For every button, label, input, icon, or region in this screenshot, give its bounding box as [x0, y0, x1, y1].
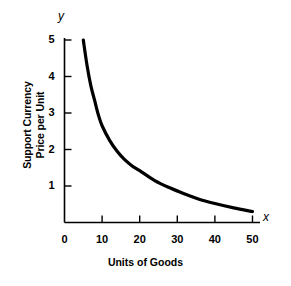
x-tick-label: 40	[203, 233, 227, 245]
y-tick-label: 2	[39, 143, 55, 155]
x-tick-label: 0	[53, 233, 77, 245]
x-tick-label: 50	[240, 233, 264, 245]
y-tick-label: 5	[39, 33, 55, 45]
x-tick-label: 20	[128, 233, 152, 245]
axes	[65, 38, 261, 223]
y-tick-label: 4	[39, 70, 55, 82]
chart-figure: Support Currency Price per Unit y x 1234…	[0, 0, 291, 286]
x-tick-label: 30	[165, 233, 189, 245]
y-tick-label: 3	[39, 106, 55, 118]
x-axis-title: Units of Goods	[0, 256, 291, 268]
x-axis-tick-marks	[102, 216, 252, 223]
x-tick-label: 10	[90, 233, 114, 245]
y-tick-label: 1	[39, 179, 55, 191]
y-axis-tick-marks	[65, 40, 72, 186]
demand-curve	[83, 40, 252, 212]
